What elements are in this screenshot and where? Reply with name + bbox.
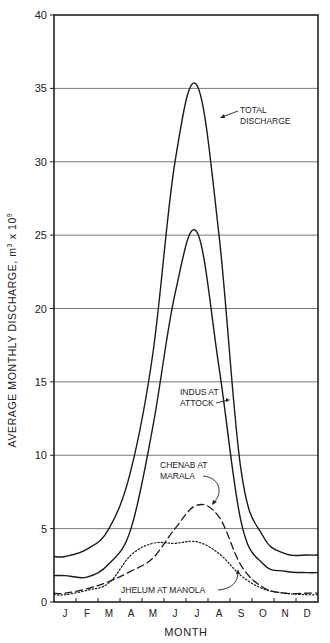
x-axis-title: MONTH (164, 626, 207, 638)
label-indus-2: ATTOCK (180, 398, 214, 408)
y-tick-label: 5 (41, 523, 47, 535)
x-tick-label: O (259, 608, 267, 619)
y-axis-title: AVERAGE MONTHLY DISCHARGE, m3 x 109 (6, 213, 18, 448)
x-tick-label: J (63, 608, 68, 619)
x-tick-label: J (195, 608, 200, 619)
arrowhead-icon (220, 114, 225, 118)
y-tick-label: 10 (35, 449, 47, 461)
x-tick-label: S (238, 608, 245, 619)
y-axis-ticks: 0510152025303540 (35, 9, 54, 608)
annotation-chenab-marala: CHENAB AT MARALA (160, 460, 219, 505)
y-tick-label: 25 (35, 229, 47, 241)
label-chenab-2: MARALA (160, 471, 195, 481)
discharge-chart: 0510152025303540 JFMAMJJASOND AVERAGE MO… (0, 0, 330, 643)
x-tick-label: J (173, 608, 178, 619)
y-tick-label: 40 (35, 9, 47, 21)
series-chenab-at-marala (54, 504, 318, 593)
y-tick-label: 35 (35, 82, 47, 94)
arrow-icon (203, 476, 219, 502)
x-axis-ticks: JFMAMJJASOND (63, 598, 311, 619)
label-indus: INDUS AT (180, 387, 219, 397)
x-tick-label: A (128, 608, 135, 619)
label-chenab: CHENAB AT (160, 460, 208, 470)
series-total-discharge (54, 83, 318, 557)
y-tick-label: 0 (41, 596, 47, 608)
arrowhead-icon (236, 569, 240, 574)
series-lines (54, 83, 318, 595)
y-tick-label: 15 (35, 376, 47, 388)
annotation-jhelum-manola: JHELUM AT MANOLA (121, 569, 240, 595)
arrow-icon (218, 572, 238, 590)
x-tick-label: D (303, 608, 310, 619)
y-tick-label: 30 (35, 156, 47, 168)
x-tick-label: M (105, 608, 113, 619)
label-total: TOTAL (240, 105, 267, 115)
y-tick-label: 20 (35, 303, 47, 315)
annotation-total-discharge: TOTAL DISCHARGE (220, 105, 291, 126)
label-jhelum: JHELUM AT MANOLA (121, 585, 206, 595)
x-tick-label: F (84, 608, 90, 619)
x-tick-label: A (216, 608, 223, 619)
x-tick-label: M (149, 608, 157, 619)
label-total-2: DISCHARGE (240, 116, 291, 126)
x-tick-label: N (281, 608, 288, 619)
arrowhead-icon (212, 500, 217, 505)
arrowhead-icon (226, 398, 230, 402)
